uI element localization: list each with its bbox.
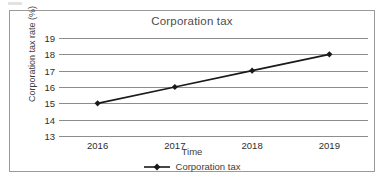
data-point-marker — [172, 84, 178, 90]
chart-legend: Corporation tax — [10, 161, 374, 172]
chart-title: Corporation tax — [10, 15, 374, 27]
y-axis-tick-label: 19 — [44, 33, 55, 44]
chart-container: Corporation tax Corporation tax rate (%)… — [9, 10, 375, 172]
data-point-marker — [95, 100, 101, 106]
y-axis-label: Corporation tax rate (%) — [27, 6, 37, 102]
y-axis-tick-label: 13 — [44, 131, 55, 142]
y-axis-tick-label: 18 — [44, 49, 55, 60]
series-line — [98, 54, 330, 103]
data-point-marker — [249, 68, 255, 74]
y-axis-tick-label: 17 — [44, 65, 55, 76]
x-axis-label: Time — [10, 146, 374, 157]
legend-marker-icon — [144, 162, 170, 172]
gridline — [59, 136, 368, 137]
y-axis-tick-label: 14 — [44, 114, 55, 125]
data-point-marker — [326, 51, 332, 57]
legend-item-label: Corporation tax — [176, 161, 241, 172]
scan-artifact — [8, 2, 22, 5]
y-axis-tick-label: 16 — [44, 82, 55, 93]
y-axis-tick-label: 15 — [44, 98, 55, 109]
plot-area: 19181716151413 2016201720182019 — [59, 38, 368, 136]
series-corporation-tax — [59, 38, 368, 136]
